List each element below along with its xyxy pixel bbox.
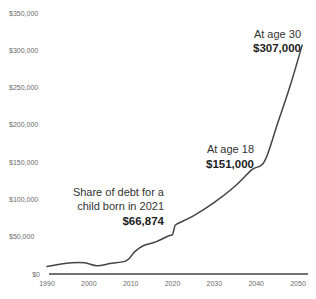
y-tick-label: $50,000 [9, 233, 34, 240]
annotation-age-30-value: $307,000 [253, 42, 301, 54]
x-tick-label: 2040 [248, 280, 264, 287]
annotation-2021-line2: child born in 2021 [77, 200, 164, 212]
debt-line-chart: $0$50,000$100,000$150,000$200,000$250,00… [0, 0, 316, 299]
y-tick-label: $0 [32, 271, 40, 278]
x-tick-label: 2010 [123, 280, 139, 287]
y-tick-label: $350,000 [9, 10, 38, 17]
x-axis-labels: 1990200020102020203020402050 [39, 280, 306, 287]
annotation-age-30: At age 30 $307,000 [253, 28, 301, 54]
annotation-age-18: At age 18 $151,000 [206, 143, 254, 170]
annotation-2021-line1: Share of debt for a [73, 186, 165, 198]
x-tick-label: 2000 [81, 280, 97, 287]
y-axis-labels: $0$50,000$100,000$150,000$200,000$250,00… [9, 10, 40, 278]
y-tick-label: $250,000 [9, 84, 38, 91]
y-tick-label: $100,000 [9, 196, 38, 203]
annotation-age-30-label: At age 30 [254, 28, 301, 40]
x-tick-label: 2020 [165, 280, 181, 287]
annotation-2021: Share of debt for a child born in 2021 $… [73, 186, 165, 227]
y-tick-label: $200,000 [9, 121, 38, 128]
x-tick-label: 2030 [207, 280, 223, 287]
x-tick-label: 1990 [39, 280, 55, 287]
annotation-age-18-value: $151,000 [206, 158, 254, 170]
y-tick-label: $300,000 [9, 47, 38, 54]
debt-series-line [47, 45, 302, 266]
annotation-age-18-label: At age 18 [207, 143, 254, 155]
annotation-2021-value: $66,874 [122, 215, 164, 227]
y-tick-label: $150,000 [9, 159, 38, 166]
x-tick-label: 2050 [290, 280, 306, 287]
